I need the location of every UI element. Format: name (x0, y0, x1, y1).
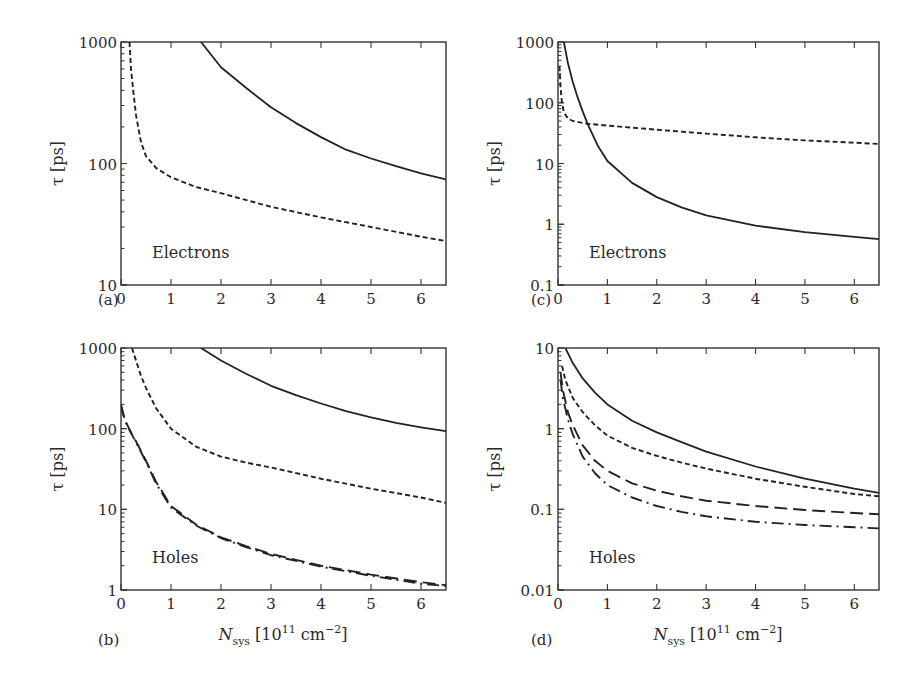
series-solid (565, 348, 879, 493)
panel-c: 01234560.11101001000Electrons(c)τ [ps] (485, 34, 879, 309)
x-tick-label: 3 (701, 595, 711, 613)
x-tick-label: 5 (800, 595, 810, 613)
x-axis-label: Nsys [1011 cm−2] (653, 623, 783, 648)
series-dashed (560, 66, 880, 144)
y-tick-label: 10 (535, 156, 554, 174)
x-tick-label: 2 (216, 595, 226, 613)
x-tick-label: 6 (850, 595, 860, 613)
x-axis-label: Nsys [1011 cm−2] (218, 623, 348, 648)
series-long-dashed (561, 372, 880, 514)
x-tick-label: 5 (800, 290, 810, 308)
y-axis-label: τ [ps] (48, 447, 67, 492)
panel-label: (c) (531, 291, 551, 309)
x-tick-label: 1 (166, 290, 176, 308)
x-tick-label: 5 (366, 595, 376, 613)
y-tick-label: 1 (544, 421, 554, 439)
y-axis-label: τ [ps] (485, 141, 504, 186)
x-tick-label: 0 (553, 595, 563, 613)
x-tick-label: 3 (266, 290, 276, 308)
x-tick-label: 6 (850, 290, 860, 308)
x-tick-label: 4 (316, 595, 326, 613)
x-tick-label: 4 (751, 595, 761, 613)
y-tick-label: 10 (535, 340, 554, 358)
y-tick-label: 100 (525, 95, 554, 113)
panel-label: (d) (531, 631, 552, 649)
panel-d: 01234560.010.1110Holes(d)τ [ps]Nsys [101… (485, 340, 879, 649)
x-tick-label: 5 (366, 290, 376, 308)
x-tick-label: 6 (416, 290, 426, 308)
annotation-label: Holes (589, 548, 635, 567)
y-axis-label: τ [ps] (48, 141, 67, 186)
x-tick-label: 1 (603, 290, 613, 308)
x-tick-label: 4 (316, 290, 326, 308)
panel-a: 0123456101001000Electrons(a)τ [ps] (48, 34, 446, 309)
x-tick-label: 3 (701, 290, 711, 308)
x-tick-label: 1 (603, 595, 613, 613)
panel-label: (b) (98, 631, 119, 649)
y-tick-label: 100 (88, 421, 117, 439)
y-tick-label: 1000 (79, 340, 117, 358)
series-solid (201, 42, 446, 179)
x-tick-label: 1 (166, 595, 176, 613)
figure-canvas: 0123456101001000Electrons(a)τ [ps]012345… (0, 0, 911, 682)
y-tick-label: 100 (88, 156, 117, 174)
series-dashed (130, 42, 447, 241)
y-tick-label: 1000 (79, 34, 117, 52)
x-tick-label: 4 (751, 290, 761, 308)
x-tick-label: 6 (416, 595, 426, 613)
y-tick-label: 1 (544, 216, 554, 234)
series-dashed (562, 366, 879, 496)
panel-b: 01234561101001000Holes(b)τ [ps]Nsys [101… (48, 340, 446, 649)
series-solid (564, 42, 879, 239)
series-solid (201, 348, 446, 431)
y-axis-label: τ [ps] (485, 447, 504, 492)
annotation-label: Electrons (152, 243, 229, 262)
annotation-label: Electrons (589, 243, 666, 262)
x-tick-label: 0 (553, 290, 563, 308)
x-tick-label: 2 (652, 595, 662, 613)
annotation-label: Holes (152, 548, 198, 567)
x-tick-label: 0 (116, 595, 126, 613)
y-tick-label: 0.1 (530, 501, 554, 519)
y-tick-label: 1000 (516, 34, 554, 52)
y-tick-label: 1 (107, 582, 117, 600)
x-tick-label: 3 (266, 595, 276, 613)
series-dash-dot (561, 380, 880, 528)
y-tick-label: 10 (98, 501, 117, 519)
series-dashed (132, 348, 446, 503)
panel-label: (a) (98, 291, 119, 309)
x-tick-label: 2 (216, 290, 226, 308)
x-tick-label: 2 (652, 290, 662, 308)
y-tick-label: 0.01 (521, 582, 554, 600)
